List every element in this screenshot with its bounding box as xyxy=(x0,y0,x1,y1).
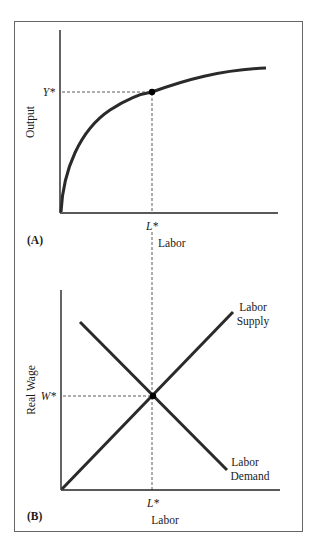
w-star-label: W* xyxy=(41,390,57,402)
production-function-curve xyxy=(61,68,266,212)
panel-a-equilibrium-point xyxy=(149,89,155,95)
labor-demand-label-line2: Demand xyxy=(231,470,270,482)
panel-b: W* L* Labor (B) Real Wage Labor Supply L… xyxy=(25,290,280,526)
labor-demand-label-line1: Labor xyxy=(231,456,259,468)
labor-supply-label-line2: Supply xyxy=(237,315,270,328)
panel-a-l-star-label: L* xyxy=(145,220,158,232)
panel-b-x-axis-label: Labor xyxy=(151,514,179,526)
figure-frame xyxy=(15,22,303,532)
panel-a: Y* L* Labor (A) Output xyxy=(24,30,278,490)
y-star-label: Y* xyxy=(43,86,55,98)
panel-b-l-star-label: L* xyxy=(146,497,159,509)
labor-market-diagram: Y* L* Labor (A) Output W* L* Labor (B) R… xyxy=(0,0,314,545)
panel-b-label: (B) xyxy=(27,510,43,523)
panel-a-label: (A) xyxy=(27,234,43,247)
panel-b-equilibrium-point xyxy=(150,393,156,399)
labor-supply-line xyxy=(62,312,233,489)
panel-a-y-axis-label: Output xyxy=(24,105,37,138)
panel-b-y-axis-label: Real Wage xyxy=(25,365,38,415)
labor-supply-label-line1: Labor xyxy=(239,301,267,313)
panel-a-x-axis-label: Labor xyxy=(158,237,186,249)
